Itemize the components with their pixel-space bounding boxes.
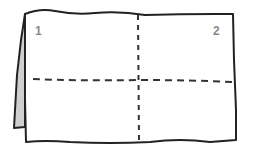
panel-2-label: 2 (213, 24, 220, 38)
paper-sheet (25, 10, 236, 143)
paper-flap (14, 14, 25, 128)
panel-1-label: 1 (35, 24, 42, 38)
